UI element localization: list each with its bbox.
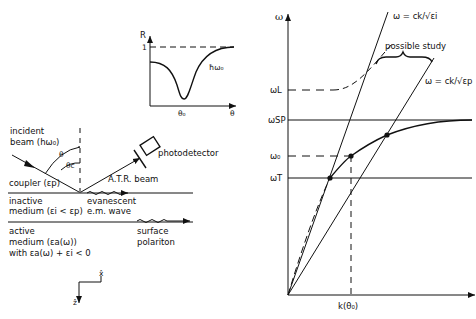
coupler-label: coupler (εp) <box>9 178 60 188</box>
theta-label: θ <box>59 150 64 159</box>
omega-T-label: ωT <box>270 173 283 183</box>
diagram-canvas: R 1 ħω₀ θ₀ θ θ θc incident <box>0 0 476 319</box>
photodetector-label: photodetector <box>158 148 219 158</box>
omega-L-label: ωL <box>270 85 282 95</box>
k-theta0-label: k(θ₀) <box>338 301 358 311</box>
photodetector-icon <box>134 137 160 168</box>
possible-study-label: possible study <box>385 41 446 51</box>
polariton-label-2: polariton <box>137 237 175 247</box>
active-label-2: medium (εa(ω)) <box>9 237 77 247</box>
light-line-p-label: ω = ck/√εp <box>425 76 473 86</box>
inset-reflectivity-plot: R 1 ħω₀ θ₀ θ <box>140 30 236 118</box>
evanescent-wave <box>87 192 123 195</box>
x-axis-label: x̂ <box>99 269 104 278</box>
active-label-1: active <box>9 226 35 236</box>
inset-curve-label: ħω₀ <box>209 63 224 72</box>
inset-y-label: R <box>140 30 146 40</box>
active-label-3: with εa(ω) + εi < 0 <box>9 248 91 258</box>
inactive-label-2: medium (εi < εp) <box>9 206 83 216</box>
inset-x-label: θ <box>230 109 235 118</box>
light-line-p <box>288 58 434 295</box>
light-line-i-label: ω = ck/√εi <box>393 11 437 21</box>
incident-label-2: beam (hω₀) <box>10 137 59 147</box>
inset-x-tick: θ₀ <box>178 109 186 118</box>
possible-study-brace <box>376 52 432 64</box>
inset-reflectivity-curve <box>150 47 234 99</box>
z-axis-label: ẑ <box>73 298 77 307</box>
atr-geometry: θ θc incident beam (hω₀) photodetector A… <box>8 126 219 258</box>
omega-SP-label: ωSP <box>268 115 286 125</box>
theta-c-label: θc <box>66 161 75 170</box>
polariton-label-1: surface <box>137 226 168 236</box>
incident-label-1: incident <box>10 126 45 136</box>
inset-y-tick: 1 <box>142 43 147 52</box>
atr-beam-label: A.T.R. beam <box>108 174 158 184</box>
light-line-i <box>288 12 388 295</box>
incident-arrow-icon <box>24 160 35 168</box>
inactive-label-1: inactive <box>9 196 43 206</box>
dispersion-plot: ω ωL ωSP ω₀ ωT ω = ck/√εi possible study… <box>268 11 475 311</box>
intersection-point-p <box>384 132 389 137</box>
omega-0-label: ω₀ <box>270 151 281 161</box>
omega-axis-label: ω <box>275 11 283 22</box>
coordinate-axes: x̂ ẑ <box>73 269 104 307</box>
evanescent-label-1: evanescent <box>87 196 137 206</box>
intersection-point-T <box>327 175 332 180</box>
evanescent-label-2: e.m. wave <box>87 206 131 216</box>
